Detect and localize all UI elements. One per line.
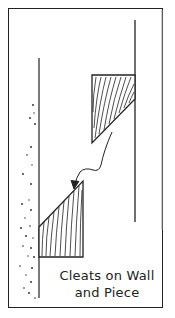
lower-cleat	[39, 181, 83, 257]
caption-line-1: Cleats on Wall	[52, 267, 162, 284]
figure-caption: Cleats on Wall and Piece	[52, 267, 162, 301]
caption-line-2: and Piece	[52, 284, 162, 301]
upper-cleat	[92, 75, 135, 143]
wall-stipple	[19, 104, 36, 299]
